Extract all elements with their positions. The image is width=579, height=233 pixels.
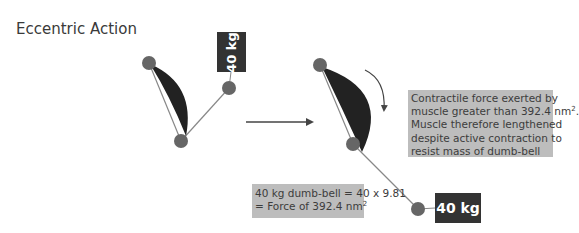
note-line: Contractile force exerted by bbox=[411, 92, 550, 105]
note-text: muscle greater than 392.4 nm bbox=[411, 105, 571, 117]
note-line: Muscle therefore lengthened bbox=[411, 118, 550, 131]
weight-box-left: 40 kg bbox=[217, 32, 246, 72]
hand-joint bbox=[411, 202, 425, 216]
note-text: = Force of 392.4 nm bbox=[255, 200, 363, 212]
contractile-force-note: Contractile force exerted by muscle grea… bbox=[408, 90, 553, 157]
weight-label: 40 kg bbox=[436, 200, 480, 216]
forearm-bone bbox=[181, 88, 229, 141]
hand-joint bbox=[222, 81, 236, 95]
weight-box-right: 40 kg bbox=[435, 193, 481, 223]
muscle-lengthened bbox=[322, 67, 371, 152]
superscript: 2 bbox=[363, 200, 367, 208]
elbow-joint bbox=[174, 134, 188, 148]
note-line: = Force of 392.4 nm2 bbox=[255, 200, 361, 213]
force-calculation-note: 40 kg dumb-bell = 40 x 9.81 = Force of 3… bbox=[252, 184, 364, 218]
shoulder-joint bbox=[142, 56, 156, 70]
note-line: resist mass of dumb-bell bbox=[411, 145, 550, 158]
elbow-joint bbox=[346, 137, 360, 151]
shoulder-joint bbox=[313, 58, 327, 72]
muscle-contracted bbox=[150, 64, 188, 136]
weight-label: 40 kg bbox=[224, 32, 239, 73]
note-line: 40 kg dumb-bell = 40 x 9.81 bbox=[255, 187, 361, 200]
note-line: despite active contraction to bbox=[411, 132, 550, 145]
note-line: muscle greater than 392.4 nm2. bbox=[411, 105, 550, 118]
